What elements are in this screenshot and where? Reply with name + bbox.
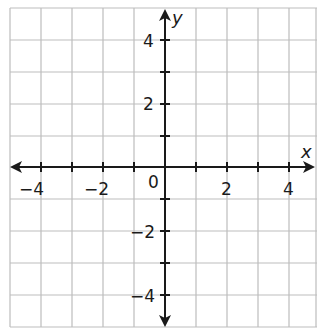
y-tick-label-neg4: −4 bbox=[130, 286, 155, 306]
x-tick-label-pos2: 2 bbox=[221, 179, 232, 199]
x-tick-label-neg4: −4 bbox=[19, 179, 44, 199]
background bbox=[0, 0, 317, 330]
x-tick-label-pos4: 4 bbox=[283, 179, 294, 199]
x-axis-label: x bbox=[300, 141, 312, 162]
y-axis-label: y bbox=[171, 7, 183, 28]
y-tick-label-pos2: 2 bbox=[143, 94, 154, 114]
coordinate-plane: y x 0 −4 −2 2 4 4 2 −2 −4 bbox=[0, 0, 317, 330]
x-tick-label-neg2: −2 bbox=[84, 179, 109, 199]
y-tick-label-pos4: 4 bbox=[143, 31, 154, 51]
origin-label: 0 bbox=[148, 172, 159, 192]
y-tick-label-neg2: −2 bbox=[130, 222, 155, 242]
